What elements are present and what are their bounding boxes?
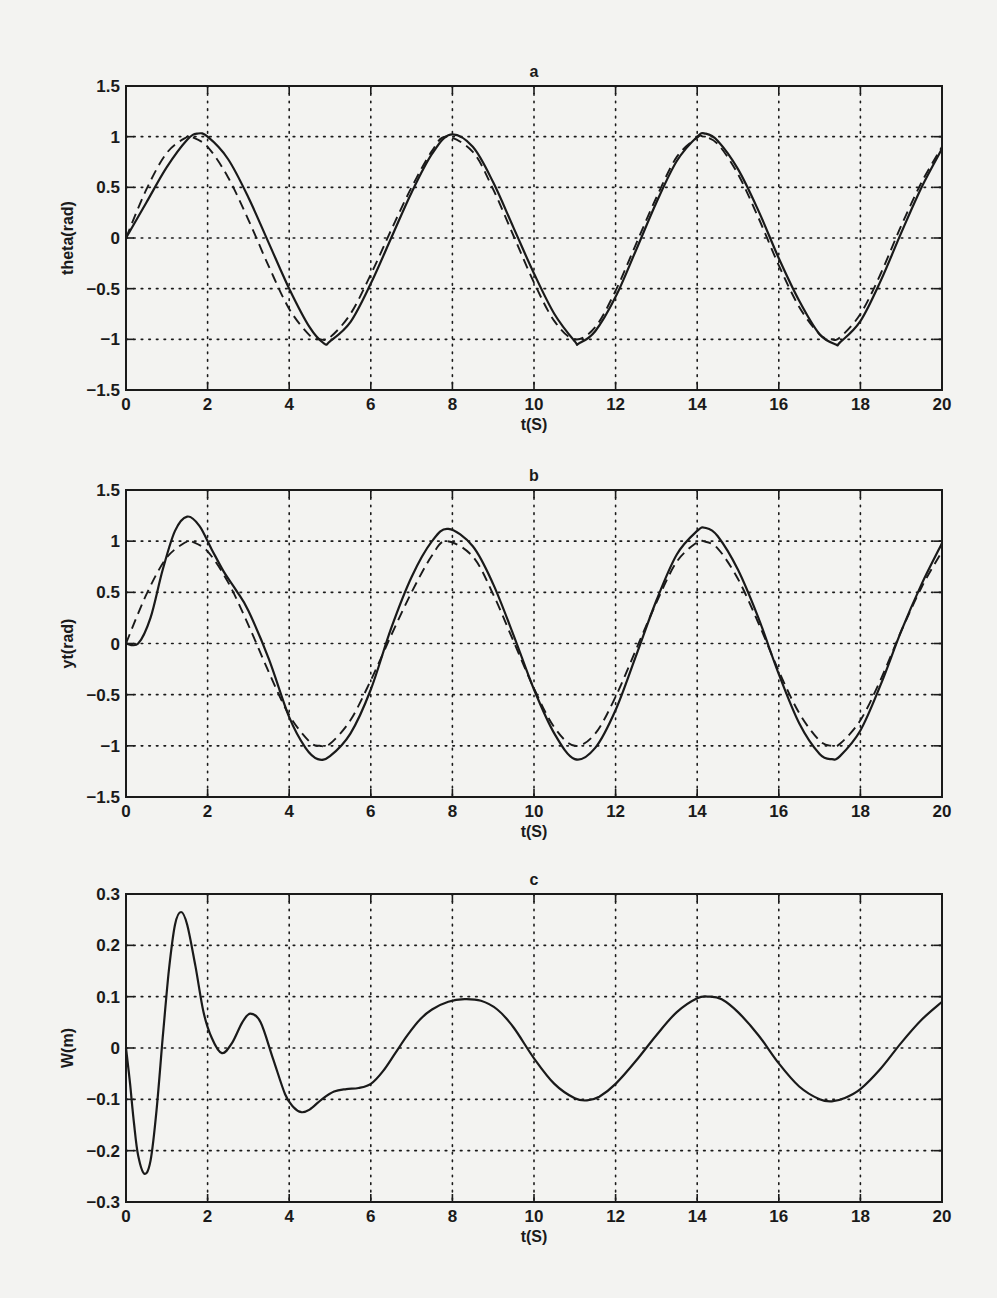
x-tick-label: 18 [851,1207,870,1226]
series-group [126,912,942,1174]
y-tick-label: −0.5 [86,280,120,299]
x-tick-label: 6 [366,395,375,414]
x-tick-label: 16 [769,802,788,821]
subplot-title: a [530,63,539,80]
x-tick-label: 4 [284,802,294,821]
x-tick-label: 2 [203,395,212,414]
x-tick-label: 18 [851,395,870,414]
x-tick-label: 12 [606,395,625,414]
y-tick-label: 0.3 [96,885,120,904]
y-tick-label: −1.5 [86,381,120,400]
figure: a02468101214161820t(S)−1.5−1−0.500.511.5… [0,0,997,1298]
x-tick-label: 20 [933,802,952,821]
x-tick-label: 8 [448,1207,457,1226]
x-tick-label: 4 [284,395,294,414]
x-tick-label: 14 [688,395,707,414]
x-tick-label: 8 [448,395,457,414]
x-tick-label: 6 [366,1207,375,1226]
grid-lines [126,894,942,1202]
x-tick-label: 6 [366,802,375,821]
y-axis-label: W(m) [59,1028,76,1068]
y-tick-label: 1.5 [96,481,120,500]
x-axis: 02468101214161820t(S) [121,894,951,1245]
y-tick-label: 0 [111,229,120,248]
x-axis: 02468101214161820t(S) [121,86,951,433]
x-tick-label: 10 [525,802,544,821]
x-tick-label: 20 [933,1207,952,1226]
x-axis-label: t(S) [521,416,548,433]
y-tick-label: −0.5 [86,686,120,705]
subplot-a: a02468101214161820t(S)−1.5−1−0.500.511.5… [59,63,951,433]
subplot-c: c02468101214161820t(S)−0.3−0.2−0.100.10.… [59,871,951,1245]
x-tick-label: 20 [933,395,952,414]
y-tick-label: −0.1 [86,1090,120,1109]
x-tick-label: 18 [851,802,870,821]
y-tick-label: 0.2 [96,936,120,955]
y-tick-label: 1 [111,532,120,551]
x-tick-label: 0 [121,395,130,414]
x-tick-label: 12 [606,802,625,821]
x-tick-label: 2 [203,1207,212,1226]
x-axis-label: t(S) [521,823,548,840]
x-tick-label: 14 [688,1207,707,1226]
x-tick-label: 10 [525,395,544,414]
x-tick-label: 0 [121,802,130,821]
subplot-b: b02468101214161820t(S)−1.5−1−0.500.511.5… [59,467,951,840]
y-axis-label: theta(rad) [59,201,76,275]
y-tick-label: −0.3 [86,1193,120,1212]
series-W-line [126,912,942,1174]
y-axis-label: yt(rad) [59,619,76,669]
y-tick-label: −1 [101,330,120,349]
grid-lines [126,86,942,390]
y-tick-label: 0.5 [96,583,120,602]
x-tick-label: 8 [448,802,457,821]
y-tick-label: −0.2 [86,1142,120,1161]
y-tick-label: 0 [111,1039,120,1058]
y-tick-label: 1.5 [96,77,120,96]
x-tick-label: 14 [688,802,707,821]
x-tick-label: 12 [606,1207,625,1226]
x-tick-label: 16 [769,395,788,414]
x-tick-label: 10 [525,1207,544,1226]
x-tick-label: 2 [203,802,212,821]
y-tick-label: −1 [101,737,120,756]
y-tick-label: 0.5 [96,178,120,197]
subplot-title: c [530,871,539,888]
x-tick-label: 16 [769,1207,788,1226]
y-tick-label: 1 [111,128,120,147]
grid-lines [126,490,942,797]
x-axis-label: t(S) [521,1228,548,1245]
x-tick-label: 0 [121,1207,130,1226]
y-tick-label: −1.5 [86,788,120,807]
y-tick-label: 0.1 [96,988,120,1007]
x-axis: 02468101214161820t(S) [121,490,951,840]
x-tick-label: 4 [284,1207,294,1226]
y-tick-label: 0 [111,635,120,654]
subplot-title: b [529,467,539,484]
